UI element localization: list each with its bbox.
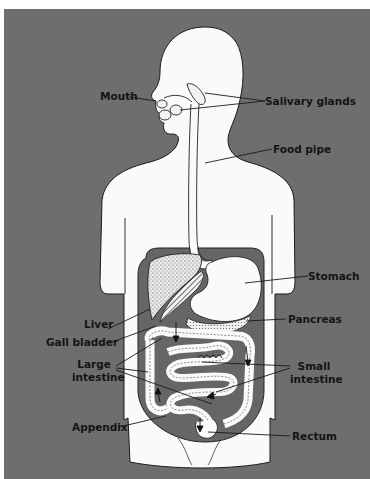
label-food-pipe: Food pipe [273, 143, 331, 156]
label-rectum: Rectum [292, 430, 337, 443]
label-pancreas: Pancreas [288, 313, 342, 326]
label-mouth: Mouth [100, 90, 138, 103]
label-stomach: Stomach [308, 270, 360, 283]
label-small-intestine: Small intestine [290, 360, 338, 386]
label-salivary-glands: Salivary glands [265, 95, 356, 108]
label-liver: Liver [84, 318, 113, 331]
label-appendix: Appendix [72, 421, 128, 434]
label-large-intestine: Large intestine [72, 358, 116, 384]
label-gall-bladder: Gall bladder [46, 336, 118, 349]
digestive-system-diagram [0, 0, 370, 479]
